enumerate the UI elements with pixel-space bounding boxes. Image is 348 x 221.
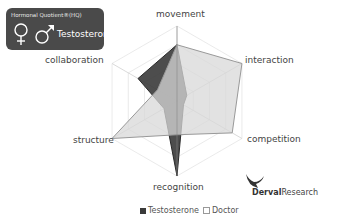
swatch-icon [203,207,210,214]
swatch-icon [140,208,146,214]
axis-label-structure: structure [73,135,114,145]
axis-label-collaboration: collaboration [45,55,104,65]
axis-label-recognition: recognition [153,182,204,192]
legend-item-doctor: Doctor [203,206,239,215]
axis-label-movement: movement [156,9,205,19]
chart-legend: Testosterone Doctor [140,206,239,215]
axis-label-interaction: interaction [245,55,294,65]
logo-swoosh-icon [244,172,266,192]
legend-item-testosterone: Testosterone [140,206,199,215]
derval-research-logo: DervalResearch [252,188,318,197]
axis-label-competition: competition [247,134,301,144]
